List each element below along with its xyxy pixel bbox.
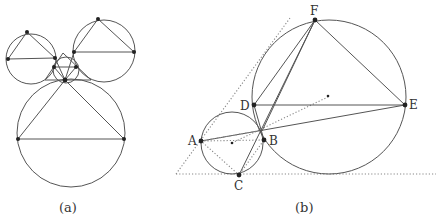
label-B: B xyxy=(269,134,278,148)
label-D: D xyxy=(240,99,250,113)
triangle-ABC xyxy=(201,140,264,175)
label-C: C xyxy=(234,179,243,193)
label-A: A xyxy=(187,134,197,148)
circle-bottom xyxy=(17,79,125,187)
circle-large xyxy=(252,20,406,174)
triangle-bottom xyxy=(18,80,124,139)
panel-b: F E D A B C (b) xyxy=(176,4,436,215)
geometry-figure: (a) F E D A B C (b) xyxy=(0,0,439,221)
label-E: E xyxy=(409,98,418,112)
circle-top-right xyxy=(73,20,135,82)
triangle-top-right xyxy=(74,19,134,52)
triangle-DEF xyxy=(254,20,405,105)
caption-a: (a) xyxy=(59,200,77,215)
tangent-line-left xyxy=(176,18,290,174)
caption-b: (b) xyxy=(295,200,313,215)
triangle-top-left xyxy=(8,32,55,59)
panel-a: (a) xyxy=(6,17,136,215)
label-F: F xyxy=(310,4,318,18)
